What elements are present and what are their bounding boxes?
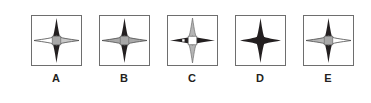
option-d-figure (236, 16, 285, 65)
option-c-figure (168, 16, 217, 65)
option-d-figure-box[interactable] (235, 15, 286, 66)
figure-choice-panel: A B (0, 0, 371, 103)
option-e-figure (304, 16, 353, 65)
option-b-figure (100, 16, 149, 65)
options-row: A B (0, 0, 371, 103)
option-a-figure-box[interactable] (31, 15, 82, 66)
option-a-label: A (52, 72, 60, 85)
option-d-label: D (256, 72, 264, 85)
option-c-figure-box[interactable] (167, 15, 218, 66)
option-d[interactable]: D (226, 0, 294, 85)
option-a[interactable]: A (22, 0, 90, 85)
option-c[interactable]: C (158, 0, 226, 85)
option-e-figure-box[interactable] (303, 15, 354, 66)
option-c-label: C (188, 72, 196, 85)
option-e[interactable]: E (294, 0, 362, 85)
option-e-label: E (324, 72, 332, 85)
option-b-figure-box[interactable] (99, 15, 150, 66)
option-b[interactable]: B (90, 0, 158, 85)
option-a-figure (32, 16, 81, 65)
option-b-label: B (120, 72, 128, 85)
